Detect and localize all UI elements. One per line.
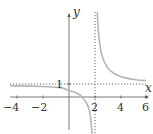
function-graph: y x 1 −4 −2 2 4 6 xyxy=(0,0,153,134)
x-tick-label-neg2: −2 xyxy=(31,101,47,114)
curve-left-branch xyxy=(10,86,92,134)
y-tick-label-1: 1 xyxy=(56,78,63,91)
x-tick-label-4: 4 xyxy=(117,101,124,114)
x-tick-label-2: 2 xyxy=(91,101,98,114)
y-axis-label: y xyxy=(72,5,80,19)
x-axis-label: x xyxy=(145,81,152,95)
x-tick-label-neg4: −4 xyxy=(3,101,19,114)
curve-right-branch xyxy=(97,12,146,81)
y-axis-arrow-icon xyxy=(67,13,70,17)
x-tick-label-6: 6 xyxy=(142,101,149,114)
